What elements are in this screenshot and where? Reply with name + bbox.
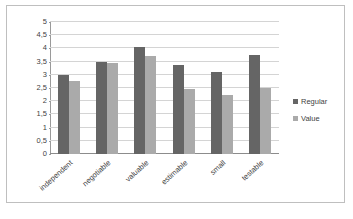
y-axis-tick-label: 4 bbox=[43, 45, 47, 53]
bar-group bbox=[50, 22, 88, 154]
bar bbox=[173, 65, 184, 154]
bar bbox=[145, 56, 156, 154]
x-axis-category-label: testable bbox=[240, 159, 265, 182]
bar bbox=[96, 62, 107, 154]
legend-item: Regular bbox=[293, 98, 341, 106]
bar bbox=[134, 47, 145, 154]
x-axis-category-labels: independentnegotiablevaluableestimablesm… bbox=[50, 156, 279, 202]
bar-groups bbox=[50, 22, 279, 154]
y-axis-tick-label: 3,5 bbox=[37, 58, 47, 66]
y-axis-tick-mark bbox=[49, 101, 51, 102]
legend-label: Value bbox=[301, 115, 320, 123]
x-axis-category-label: estimable bbox=[160, 159, 189, 186]
y-axis-tick-mark bbox=[49, 141, 51, 142]
y-axis-tick-label: 3 bbox=[43, 71, 47, 79]
bar-group bbox=[241, 22, 279, 154]
y-axis-tick-label: 1,5 bbox=[37, 111, 47, 119]
bar bbox=[249, 55, 260, 154]
bar-group bbox=[203, 22, 241, 154]
bar bbox=[69, 81, 80, 154]
y-axis-tick-mark bbox=[49, 154, 51, 155]
chart-frame: 00,511,522,533,544,55 independentnegotia… bbox=[6, 5, 345, 203]
y-axis-tick-label: 0 bbox=[43, 150, 47, 158]
x-axis-label-cell: negotiable bbox=[88, 156, 126, 202]
legend-label: Regular bbox=[301, 98, 327, 106]
bar bbox=[107, 63, 118, 154]
y-axis-tick-mark bbox=[49, 35, 51, 36]
y-axis-tick-label: 1 bbox=[43, 124, 47, 132]
bar bbox=[222, 95, 233, 154]
x-axis-label-cell: estimable bbox=[165, 156, 203, 202]
y-axis-tick-mark bbox=[49, 48, 51, 49]
y-axis-tick-labels: 00,511,522,533,544,55 bbox=[25, 22, 47, 154]
y-axis-tick-label: 2 bbox=[43, 97, 47, 105]
plot-area bbox=[50, 22, 279, 154]
bar-group bbox=[88, 22, 126, 154]
y-axis-tick-label: 2,5 bbox=[37, 84, 47, 92]
y-axis-tick-mark bbox=[49, 128, 51, 129]
bar bbox=[260, 88, 271, 154]
x-axis-category-label: valuable bbox=[125, 159, 151, 183]
bar-group bbox=[126, 22, 164, 154]
y-axis-tick-mark bbox=[49, 88, 51, 89]
bar bbox=[58, 75, 69, 154]
x-axis-category-label: small bbox=[209, 159, 227, 176]
x-axis-label-cell: small bbox=[203, 156, 241, 202]
x-axis-category-label: independent bbox=[38, 159, 74, 192]
legend-swatch-icon bbox=[293, 116, 298, 121]
x-axis-label-cell: testable bbox=[241, 156, 279, 202]
y-axis-tick-label: 0,5 bbox=[37, 137, 47, 145]
y-axis-tick-mark bbox=[49, 22, 51, 23]
y-axis-tick-mark bbox=[49, 114, 51, 115]
bar bbox=[184, 89, 195, 154]
legend-item: Value bbox=[293, 115, 341, 123]
chart-legend: RegularValue bbox=[293, 98, 341, 131]
y-axis-tick-label: 4,5 bbox=[37, 31, 47, 39]
y-axis-tick-label: 5 bbox=[43, 18, 47, 26]
bar bbox=[211, 72, 222, 154]
legend-swatch-icon bbox=[293, 99, 298, 104]
y-axis-tick-mark bbox=[49, 62, 51, 63]
y-axis-tick-mark bbox=[49, 75, 51, 76]
bar-group bbox=[165, 22, 203, 154]
